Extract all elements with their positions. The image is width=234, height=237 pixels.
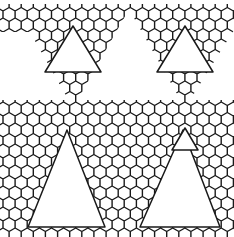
tiling-figure [0,0,234,237]
upper-right-triangle [157,26,213,72]
tiling-pattern [0,0,234,237]
small-right-triangle [172,128,198,150]
upper-left-triangle [45,26,101,72]
